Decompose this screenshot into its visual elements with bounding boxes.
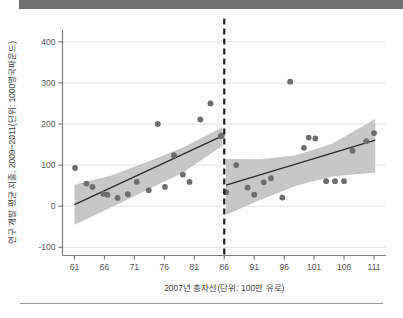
x-tick-label: 91 xyxy=(249,262,259,272)
data-point xyxy=(245,185,251,191)
data-point xyxy=(115,195,121,201)
data-point xyxy=(105,192,111,198)
data-point xyxy=(279,195,285,201)
data-point xyxy=(197,117,203,123)
data-point xyxy=(84,181,90,187)
x-tick-label: 86 xyxy=(220,262,230,272)
data-point xyxy=(287,79,293,85)
x-tick-label: 61 xyxy=(70,262,80,272)
y-tick-label: 0 xyxy=(51,201,56,211)
data-point xyxy=(90,184,96,190)
data-point xyxy=(155,121,161,127)
x-tick-label: 101 xyxy=(307,262,321,272)
regression-line xyxy=(74,136,222,205)
data-point xyxy=(187,179,193,185)
y-tick-label: 100 xyxy=(41,160,55,170)
x-tick-label-group: 6166717681869196101106111 xyxy=(70,262,381,272)
data-point xyxy=(162,184,168,190)
y-tick-label: 200 xyxy=(41,119,55,129)
data-point xyxy=(180,172,186,178)
chart-plot-area: 6166717681869196101106111 -1000100200300… xyxy=(0,0,403,318)
x-tick-label: 106 xyxy=(337,262,351,272)
data-point xyxy=(208,101,214,107)
data-point xyxy=(125,191,131,197)
data-point xyxy=(371,130,377,136)
y-tick-label-group: -1000100200300400 xyxy=(38,37,55,252)
data-point xyxy=(301,145,307,151)
data-point xyxy=(134,179,140,185)
confidence-band xyxy=(226,119,375,215)
x-tick-label: 76 xyxy=(160,262,170,272)
data-point xyxy=(261,179,267,185)
data-point xyxy=(341,178,347,184)
x-tick-label: 71 xyxy=(130,262,140,272)
figure-container: 6166717681869196101106111 -1000100200300… xyxy=(0,0,403,318)
scatter-chart-svg: 6166717681869196101106111 -1000100200300… xyxy=(0,0,403,318)
x-tick-label: 96 xyxy=(279,262,289,272)
data-point xyxy=(171,152,177,158)
data-point xyxy=(332,178,338,184)
x-tick-label: 66 xyxy=(100,262,110,272)
data-point xyxy=(350,148,356,154)
x-tick-label: 81 xyxy=(190,262,200,272)
y-tick-label: -100 xyxy=(38,242,55,252)
y-tick-label: 300 xyxy=(41,78,55,88)
data-point xyxy=(306,135,312,141)
y-axis-title: 연구 개발 평균 지출, 2009~2011(단위: 1000영국파운드) xyxy=(7,41,17,244)
data-point xyxy=(233,162,239,168)
data-point xyxy=(251,192,257,198)
x-axis-title: 2007년 총자산(단위: 100만 유로) xyxy=(164,283,284,293)
data-point xyxy=(268,175,274,181)
x-tick-label: 111 xyxy=(368,262,381,272)
confidence-band xyxy=(74,127,222,224)
data-point xyxy=(363,138,369,144)
data-point xyxy=(312,135,318,141)
y-tick-label: 400 xyxy=(41,37,55,47)
data-point xyxy=(323,178,329,184)
data-point xyxy=(72,165,78,171)
data-point xyxy=(146,187,152,193)
bottom-divider-rule xyxy=(20,303,383,304)
